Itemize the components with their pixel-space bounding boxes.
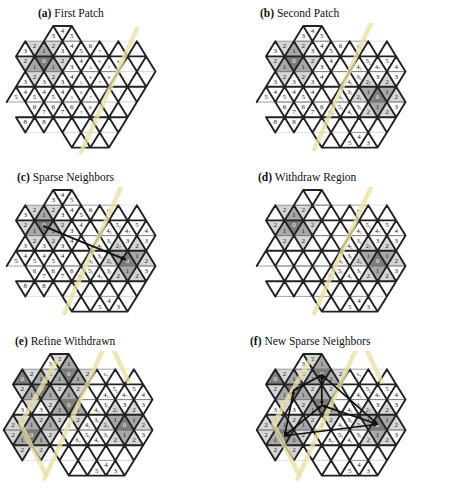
svg-text:0: 0 bbox=[376, 257, 380, 265]
svg-text:4: 4 bbox=[144, 227, 148, 235]
svg-text:4: 4 bbox=[357, 133, 361, 141]
svg-text:3: 3 bbox=[394, 237, 398, 245]
svg-text:2: 2 bbox=[51, 237, 55, 245]
svg-text:4: 4 bbox=[104, 461, 108, 469]
svg-text:8: 8 bbox=[42, 282, 46, 290]
panel-e-caption-label: (e) bbox=[15, 335, 28, 347]
svg-text:2: 2 bbox=[132, 406, 136, 414]
svg-text:2: 2 bbox=[311, 57, 315, 65]
svg-text:4: 4 bbox=[24, 252, 28, 260]
svg-text:4: 4 bbox=[394, 63, 398, 71]
svg-text:4: 4 bbox=[70, 206, 74, 214]
svg-text:3: 3 bbox=[61, 211, 65, 219]
svg-text:2: 2 bbox=[301, 401, 305, 409]
svg-text:2: 2 bbox=[283, 237, 287, 245]
svg-text:3: 3 bbox=[274, 78, 278, 86]
svg-text:0: 0 bbox=[126, 257, 130, 265]
svg-text:1: 1 bbox=[301, 63, 305, 71]
svg-text:5: 5 bbox=[14, 93, 18, 101]
panel-b-caption-label: (b) bbox=[260, 7, 274, 19]
panel-d: (d) Withdraw Region 21267210124555475422… bbox=[228, 164, 456, 328]
svg-text:4: 4 bbox=[70, 73, 74, 81]
svg-text:8: 8 bbox=[24, 118, 28, 126]
svg-text:4: 4 bbox=[320, 42, 324, 50]
panel-c-mesh: 3453212345667210123445554754323234453527… bbox=[0, 187, 228, 328]
svg-text:1: 1 bbox=[385, 252, 389, 260]
svg-text:6: 6 bbox=[33, 103, 37, 111]
svg-text:4: 4 bbox=[70, 42, 74, 50]
svg-text:3: 3 bbox=[274, 406, 278, 414]
svg-text:0: 0 bbox=[67, 370, 71, 378]
panel-c-caption: (c) Sparse Neighbors bbox=[0, 164, 228, 187]
svg-text:1: 1 bbox=[33, 227, 37, 235]
svg-text:1: 1 bbox=[30, 421, 34, 429]
svg-text:2: 2 bbox=[24, 57, 28, 65]
svg-text:1: 1 bbox=[48, 391, 52, 399]
svg-text:3: 3 bbox=[39, 406, 43, 414]
panel-e-mesh: 3210212101267210121245554754323210145352… bbox=[0, 351, 228, 492]
svg-text:2: 2 bbox=[329, 385, 333, 393]
svg-text:1: 1 bbox=[58, 406, 62, 414]
svg-text:4: 4 bbox=[274, 88, 278, 96]
panel-c-caption-title: Sparse Neighbors bbox=[33, 171, 114, 183]
svg-text:2: 2 bbox=[274, 446, 278, 454]
svg-text:4: 4 bbox=[394, 227, 398, 235]
svg-text:2: 2 bbox=[301, 206, 305, 214]
svg-text:3: 3 bbox=[117, 303, 121, 311]
panel-a-caption: (a) First Patch bbox=[0, 0, 228, 23]
svg-text:3: 3 bbox=[24, 211, 28, 219]
svg-text:2: 2 bbox=[135, 272, 139, 280]
svg-text:5: 5 bbox=[348, 303, 352, 311]
svg-text:2: 2 bbox=[283, 42, 287, 50]
svg-text:2: 2 bbox=[58, 385, 62, 393]
svg-text:2: 2 bbox=[394, 93, 398, 101]
svg-text:6: 6 bbox=[51, 103, 55, 111]
svg-text:7: 7 bbox=[311, 108, 315, 116]
panel-b: (b) Second Patch 34532123456672101234455… bbox=[228, 0, 456, 164]
svg-text:3: 3 bbox=[394, 401, 398, 409]
svg-text:2: 2 bbox=[283, 73, 287, 81]
svg-text:8: 8 bbox=[42, 118, 46, 126]
svg-text:2: 2 bbox=[301, 42, 305, 50]
svg-text:5: 5 bbox=[70, 196, 74, 204]
svg-text:1: 1 bbox=[385, 88, 389, 96]
svg-text:3: 3 bbox=[301, 32, 305, 40]
svg-text:3: 3 bbox=[51, 196, 55, 204]
svg-text:3: 3 bbox=[394, 431, 398, 439]
svg-text:2: 2 bbox=[311, 416, 315, 424]
svg-text:2: 2 bbox=[329, 416, 333, 424]
svg-text:1: 1 bbox=[301, 391, 305, 399]
svg-text:1: 1 bbox=[114, 416, 118, 424]
svg-text:6: 6 bbox=[70, 267, 74, 275]
svg-text:0: 0 bbox=[292, 221, 296, 229]
svg-text:3: 3 bbox=[61, 47, 65, 55]
svg-text:4: 4 bbox=[394, 391, 398, 399]
svg-text:6: 6 bbox=[283, 103, 287, 111]
svg-text:1: 1 bbox=[274, 436, 278, 444]
svg-text:2: 2 bbox=[274, 57, 278, 65]
svg-text:5: 5 bbox=[385, 385, 389, 393]
svg-text:2: 2 bbox=[58, 416, 62, 424]
svg-text:0: 0 bbox=[123, 421, 127, 429]
svg-text:2: 2 bbox=[274, 221, 278, 229]
svg-text:3: 3 bbox=[367, 303, 371, 311]
svg-text:1: 1 bbox=[39, 436, 43, 444]
svg-text:2: 2 bbox=[135, 242, 139, 250]
svg-text:4: 4 bbox=[311, 27, 315, 35]
svg-text:2: 2 bbox=[367, 272, 371, 280]
svg-text:2: 2 bbox=[385, 242, 389, 250]
svg-text:3: 3 bbox=[274, 47, 278, 55]
svg-text:1: 1 bbox=[132, 416, 136, 424]
svg-text:1: 1 bbox=[301, 227, 305, 235]
svg-text:5: 5 bbox=[95, 467, 99, 475]
panel-f-caption-label: (f) bbox=[250, 335, 262, 347]
svg-text:2: 2 bbox=[385, 436, 389, 444]
svg-text:2: 2 bbox=[385, 78, 389, 86]
svg-text:5: 5 bbox=[79, 211, 83, 219]
svg-text:2: 2 bbox=[11, 431, 15, 439]
svg-text:2: 2 bbox=[51, 206, 55, 214]
panel-f: (f) New Sparse Neighbors 321021210126721… bbox=[228, 328, 456, 492]
svg-text:2: 2 bbox=[274, 385, 278, 393]
svg-text:1: 1 bbox=[126, 267, 130, 275]
svg-text:5: 5 bbox=[320, 32, 324, 40]
